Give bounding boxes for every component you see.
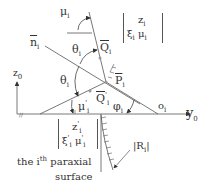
top-vector-xi-mu: ξi μi: [127, 29, 147, 42]
z0-axis-label: z0: [13, 69, 22, 81]
bottom-vector-xi-mu: ξ'i μ'i: [62, 135, 86, 149]
P-i-label: Pi: [115, 75, 125, 89]
caption-line2: surface: [55, 172, 93, 182]
Q-i-prime-label: Q'i: [96, 92, 109, 107]
n-i-label: ni: [30, 37, 39, 51]
mu-i-prime-label: μ'i: [78, 100, 89, 115]
svg-text://: //: [19, 111, 24, 118]
o-i-label: oi: [158, 101, 166, 114]
top-vector-z: zi: [138, 15, 146, 28]
theta-i-left-label: θi: [60, 75, 69, 89]
theta-i-top-label: θi: [72, 44, 81, 58]
y0-axis-label: y0: [186, 106, 198, 123]
caption-line1: the ith paraxial: [17, 156, 91, 167]
paraxial-surface-diagram: // μi zi ξi μi ni θi Qi θi Pi z0 Q'i μ'i…: [0, 0, 205, 191]
mu-i-label: μi: [60, 6, 69, 20]
Q-i-label: Qi: [100, 42, 111, 56]
R-i-label: |Ri|: [133, 141, 150, 154]
phi-i-label: φi: [113, 101, 123, 115]
